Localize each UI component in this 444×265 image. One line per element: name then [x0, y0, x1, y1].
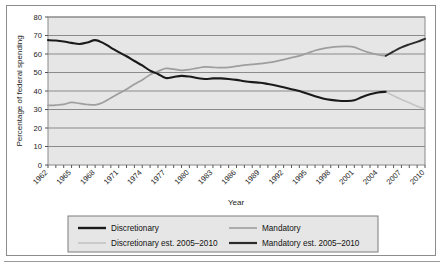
x-tick-label: 1998	[314, 168, 332, 186]
y-tick-label: 60	[34, 50, 42, 59]
line-chart: 01020304050607080 1962196519681971197419…	[0, 0, 444, 265]
x-tick-label: 1980	[172, 168, 190, 186]
legend-label: Mandatory est. 2005–2010	[262, 239, 360, 248]
x-tick-label: 2010	[408, 168, 426, 186]
y-tick-label: 40	[34, 87, 42, 96]
y-axis-tick-labels: 01020304050607080	[34, 13, 42, 170]
x-tick-label: 1977	[149, 168, 167, 186]
x-tick-label: 2001	[337, 168, 355, 186]
x-tick-label: 1989	[243, 168, 261, 186]
x-tick-label: 1965	[55, 168, 73, 186]
x-tick-label: 2007	[385, 168, 403, 186]
x-tick-label: 1971	[102, 168, 120, 186]
figure-container: 01020304050607080 1962196519681971197419…	[0, 0, 444, 265]
x-tick-label: 1992	[267, 168, 285, 186]
x-axis-tick-labels: 1962196519681971197419771980198319861989…	[31, 168, 426, 186]
y-tick-label: 70	[34, 31, 42, 40]
chart-legend: DiscretionaryMandatoryDiscretionary est.…	[68, 216, 378, 252]
legend-label: Discretionary	[111, 224, 160, 233]
y-axis-title-text: Percentage of federal spending	[15, 35, 24, 146]
x-tick-label: 1962	[31, 168, 49, 186]
y-axis-title: Percentage of federal spending	[15, 35, 24, 146]
x-tick-label: 2004	[361, 168, 379, 186]
x-tick-label: 1995	[290, 168, 308, 186]
x-axis-title: Year	[228, 198, 245, 207]
y-tick-label: 50	[34, 68, 42, 77]
x-tick-label: 1983	[196, 168, 214, 186]
legend-label: Discretionary est. 2005–2010	[111, 239, 218, 248]
y-tick-label: 80	[34, 13, 42, 22]
x-tick-label: 1986	[220, 168, 238, 186]
x-axis-title-text: Year	[228, 198, 245, 207]
legend-label: Mandatory	[262, 224, 302, 233]
y-tick-label: 10	[34, 142, 42, 151]
x-tick-label: 1968	[78, 168, 96, 186]
y-tick-label: 20	[34, 124, 42, 133]
x-tick-label: 1974	[125, 168, 143, 186]
y-tick-label: 30	[34, 105, 42, 114]
